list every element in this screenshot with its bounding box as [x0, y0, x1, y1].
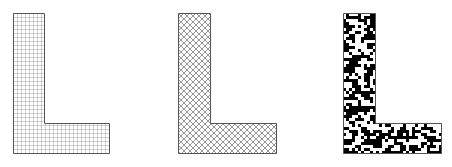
l-shape-grid — [14, 14, 110, 154]
figure-canvas — [0, 0, 452, 167]
l-shape-crosshatch — [179, 14, 277, 154]
l-shape-crosshatch-outline — [179, 14, 277, 154]
l-shape-random — [343, 13, 445, 154]
l-shape-grid-outline — [14, 14, 110, 154]
